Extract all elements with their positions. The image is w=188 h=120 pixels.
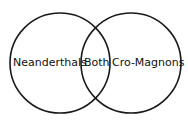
right-set-label: Cro-Magnons xyxy=(112,57,184,69)
left-set-label: Neanderthals xyxy=(13,57,87,69)
intersection-label: Both xyxy=(84,57,110,69)
